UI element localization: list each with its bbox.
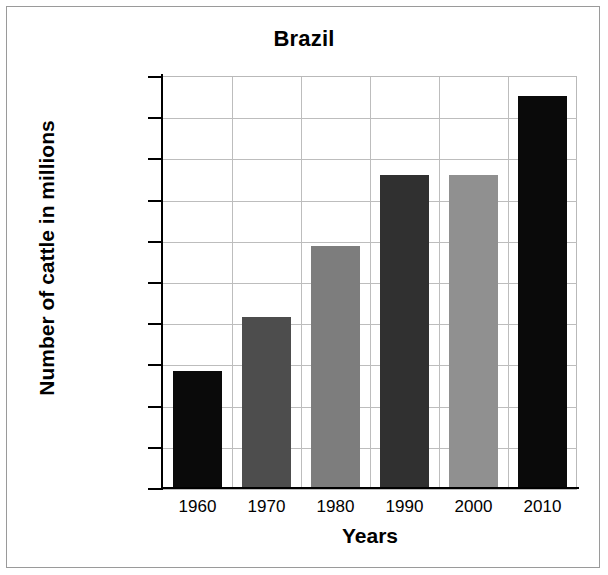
y-axis-tick: [148, 323, 162, 325]
bar-2000: [449, 175, 499, 488]
y-axis-label: Number of cattle in millions: [35, 48, 59, 468]
x-axis-tick-label: 1990: [386, 497, 424, 517]
y-axis-tick: [148, 158, 162, 160]
y-axis-label-container: Number of cattle in millions: [0, 0, 146, 575]
bar-2010: [518, 96, 568, 488]
y-axis-tick: [148, 282, 162, 284]
x-axis-label: Years: [163, 524, 577, 548]
bar-1960: [173, 371, 223, 488]
gridline-vertical: [439, 77, 440, 489]
chart-figure: Brazil Number of cattle in millions 0204…: [0, 0, 608, 575]
y-axis-tick: [148, 117, 162, 119]
y-axis-tick: [148, 364, 162, 366]
y-axis-tick: [148, 406, 162, 408]
bar-1990: [380, 175, 430, 488]
gridline-vertical: [508, 77, 509, 489]
y-axis-tick: [148, 76, 162, 78]
gridline-horizontal: [163, 489, 577, 490]
x-axis-tick-label: 1970: [248, 497, 286, 517]
gridline-vertical: [301, 77, 302, 489]
y-axis-tick: [148, 488, 162, 490]
y-axis-tick: [148, 447, 162, 449]
plot-area: [163, 76, 577, 488]
x-axis-tick-label: 2000: [455, 497, 493, 517]
x-axis-tick-label: 1980: [317, 497, 355, 517]
x-axis-line: [161, 487, 579, 489]
bar-1970: [242, 317, 292, 488]
gridline-vertical: [370, 77, 371, 489]
gridline-vertical: [232, 77, 233, 489]
y-axis-tick: [148, 200, 162, 202]
x-axis-tick-label: 2010: [524, 497, 562, 517]
y-axis-tick: [148, 241, 162, 243]
bar-1980: [311, 246, 361, 488]
x-axis-tick-label: 1960: [179, 497, 217, 517]
